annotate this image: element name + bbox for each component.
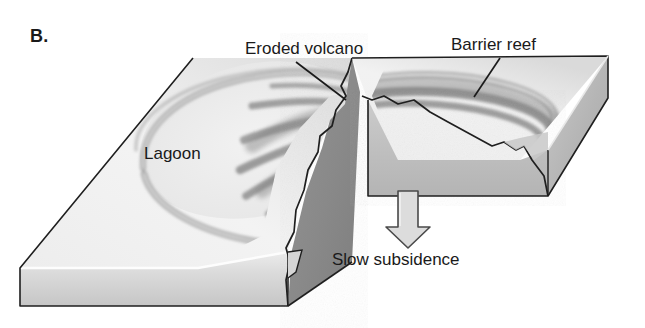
panel-letter: B. [30, 27, 48, 45]
label-eroded-volcano: Eroded volcano [245, 40, 363, 57]
label-slow-subsidence: Slow subsidence [332, 251, 460, 268]
label-lagoon: Lagoon [144, 145, 201, 162]
figure-container: B. Eroded volcano Barrier reef Lagoon Sl… [0, 0, 645, 328]
right-block [352, 56, 608, 196]
down-arrow-icon [386, 191, 430, 248]
label-barrier-reef: Barrier reef [451, 36, 536, 53]
